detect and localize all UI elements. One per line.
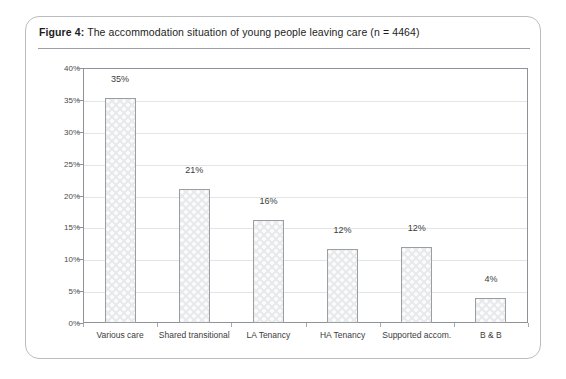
bar-group: 35%	[83, 68, 157, 323]
x-axis-tick-mark	[157, 323, 158, 327]
x-axis-tick-mark	[231, 323, 232, 327]
bar[interactable]	[179, 189, 210, 323]
figure-frame: Figure 4: The accommodation situation of…	[25, 16, 541, 359]
y-axis-tick-label: 10%	[46, 255, 80, 264]
bar[interactable]	[327, 249, 358, 323]
x-axis-tick-mark	[380, 323, 381, 327]
bar-group: 12%	[380, 68, 454, 323]
bar[interactable]	[475, 298, 506, 323]
y-axis-tick-label: 35%	[46, 95, 80, 104]
bar-group: 12%	[306, 68, 380, 323]
bar[interactable]	[401, 247, 432, 324]
caption-divider	[38, 48, 530, 49]
x-axis-tick-mark	[528, 323, 529, 327]
bar-group: 16%	[231, 68, 305, 323]
y-axis-tick-label: 30%	[46, 127, 80, 136]
bar[interactable]	[105, 98, 136, 323]
bar-value-label: 35%	[96, 74, 144, 84]
x-axis-tick-mark	[83, 323, 84, 327]
chart-container: 0%5%10%15%20%25%30%35%40% 35%21%16%12%12…	[26, 54, 542, 360]
bar-value-label: 16%	[244, 196, 292, 206]
y-axis: 0%5%10%15%20%25%30%35%40%	[40, 68, 80, 323]
x-axis-tick-mark	[454, 323, 455, 327]
bar-value-label: 12%	[393, 223, 441, 233]
bar-value-label: 4%	[467, 274, 515, 284]
y-axis-tick-label: 25%	[46, 159, 80, 168]
y-axis-tick-label: 15%	[46, 223, 80, 232]
bar[interactable]	[253, 220, 284, 323]
figure-number-label: Figure 4:	[39, 26, 84, 38]
y-axis-tick-label: 0%	[46, 319, 80, 328]
bars-layer: 35%21%16%12%12%4%	[83, 68, 528, 323]
bar-value-label: 21%	[170, 165, 218, 175]
y-axis-tick-label: 40%	[46, 64, 80, 73]
bar-group: 4%	[454, 68, 528, 323]
bar-group: 21%	[157, 68, 231, 323]
y-axis-tick-label: 5%	[46, 287, 80, 296]
figure-caption: Figure 4: The accommodation situation of…	[39, 26, 529, 38]
y-axis-tick-label: 20%	[46, 191, 80, 200]
x-axis-category-label: B & B	[436, 330, 546, 340]
figure-caption-text: The accommodation situation of young peo…	[84, 26, 419, 38]
bar-value-label: 12%	[319, 225, 367, 235]
x-axis-tick-mark	[306, 323, 307, 327]
